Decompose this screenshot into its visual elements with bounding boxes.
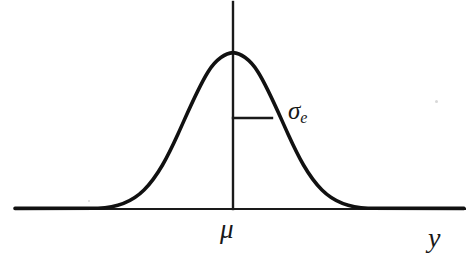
bell-curve-path <box>15 53 464 209</box>
distribution-drawing <box>0 0 476 265</box>
mean-label-mu: μ <box>220 216 234 243</box>
normal-distribution-figure: μ σe y <box>0 0 476 265</box>
sigma-glyph: σ <box>288 97 300 124</box>
standard-deviation-label-sigma-e: σe <box>288 98 307 126</box>
x-axis-label-y: y <box>428 224 440 252</box>
sigma-subscript-glyph: e <box>300 109 307 126</box>
